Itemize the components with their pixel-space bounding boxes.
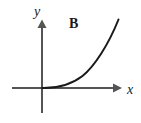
exponential-curve-figure: y x B (0, 0, 141, 123)
x-axis-label: x (126, 82, 134, 97)
panel-label-b: B (69, 16, 78, 31)
exponential-growth-curve (42, 20, 119, 89)
x-axis-arrowhead-icon (113, 84, 122, 93)
y-axis-arrowhead-icon (38, 20, 47, 29)
y-axis-label: y (32, 4, 41, 19)
figure-canvas: y x B (0, 0, 141, 123)
